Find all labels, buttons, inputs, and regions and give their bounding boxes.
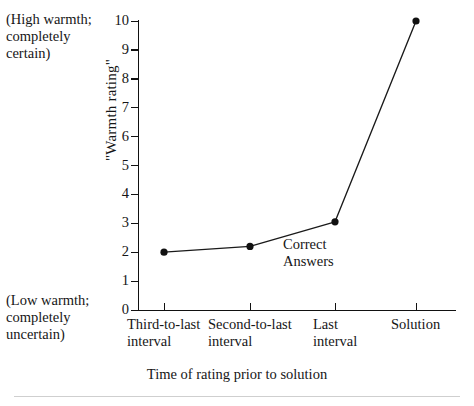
figure-container: (High warmth; completely certain) (Low w… [0, 0, 474, 406]
series-markers [160, 17, 419, 255]
data-point-0 [160, 249, 167, 256]
data-point-2 [331, 218, 338, 225]
data-point-1 [246, 243, 253, 250]
series-annotation-correct-answers: Correct Answers [283, 236, 334, 271]
x-axis-title: Time of rating prior to solution [0, 366, 474, 383]
data-series-plot [0, 0, 474, 406]
page-divider-rule [14, 396, 460, 397]
series-line [164, 21, 416, 252]
data-point-3 [412, 17, 419, 24]
